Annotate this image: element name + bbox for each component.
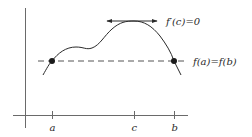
level-line-label: f(a)=f(b) <box>192 56 237 67</box>
point-b <box>171 58 177 64</box>
tick-label-a: a <box>50 122 56 133</box>
tick-label-c: c <box>132 122 138 133</box>
function-curve <box>43 21 181 75</box>
rolles-theorem-diagram: f′(c)=0 f(a)=f(b) a c b <box>0 0 252 137</box>
point-a <box>49 58 55 64</box>
tick-label-b: b <box>172 122 178 133</box>
tangent-label: f′(c)=0 <box>165 16 201 27</box>
